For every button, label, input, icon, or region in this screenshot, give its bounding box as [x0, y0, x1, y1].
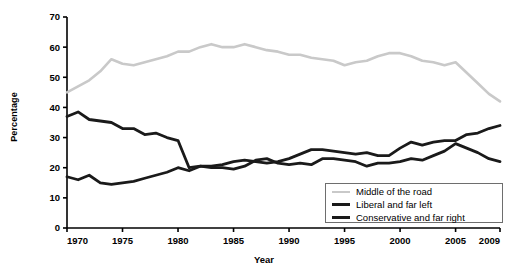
y-tick-labels: 010203040506070	[49, 11, 60, 233]
x-tick-label: 1975	[112, 235, 134, 246]
x-axis-title: Year	[0, 254, 528, 265]
y-tick-label: 10	[49, 192, 60, 203]
y-tick-label: 30	[49, 132, 60, 143]
y-tick-label: 40	[49, 102, 60, 113]
x-tick-label: 1980	[167, 235, 188, 246]
x-tick-label: 1970	[67, 235, 88, 246]
series-line	[67, 44, 500, 101]
x-tick-labels: 197019751980198519901995200020052009	[67, 235, 500, 246]
y-tick-label: 50	[49, 72, 60, 83]
x-tick-label: 2009	[479, 235, 500, 246]
legend-label: Middle of the road	[356, 185, 432, 198]
y-tick-label: 60	[49, 42, 60, 53]
legend-item: Conservative and far right	[326, 211, 502, 224]
legend-label: Liberal and far left	[356, 198, 432, 211]
legend-swatch-icon	[332, 216, 350, 219]
x-tick-label: 2000	[390, 235, 411, 246]
legend-item: Middle of the road	[326, 185, 502, 198]
legend-item: Liberal and far left	[326, 198, 502, 211]
y-tick-label: 0	[55, 222, 60, 233]
chart-root: 197019751980198519901995200020052009 010…	[0, 0, 528, 278]
y-tick-label: 70	[49, 11, 60, 22]
x-tick-label: 1995	[334, 235, 356, 246]
chart-legend: Middle of the roadLiberal and far leftCo…	[325, 183, 503, 223]
x-tick-label: 1985	[223, 235, 245, 246]
legend-swatch-icon	[332, 191, 350, 193]
x-tick-label: 2005	[445, 235, 467, 246]
series-layer	[67, 44, 500, 184]
y-tick-label: 20	[49, 162, 60, 173]
legend-swatch-icon	[332, 203, 350, 206]
line-chart-plot: 197019751980198519901995200020052009 010…	[0, 0, 528, 278]
x-tick-label: 1990	[278, 235, 299, 246]
legend-label: Conservative and far right	[356, 211, 465, 224]
y-axis-title: Percentage	[9, 82, 19, 152]
